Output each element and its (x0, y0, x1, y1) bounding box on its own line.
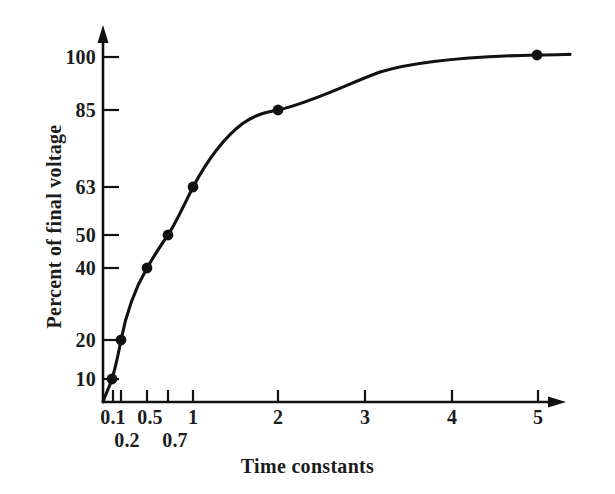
data-point (116, 335, 127, 346)
x-tick-label-5: 5 (533, 406, 543, 429)
y-axis-title: Percent of final voltage (43, 77, 66, 377)
data-point-markers (107, 50, 543, 385)
charging-curve (103, 54, 570, 402)
x-tick-label-0.2: 0.2 (114, 429, 140, 452)
x-tick-label-0.7: 0.7 (162, 429, 188, 452)
y-axis (98, 25, 109, 402)
data-point (107, 374, 118, 385)
x-tick-label-4: 4 (447, 406, 457, 429)
data-point (273, 105, 284, 116)
x-tick-label-2: 2 (273, 406, 283, 429)
data-point (188, 182, 199, 193)
x-tick-label-0.1: 0.1 (100, 406, 126, 429)
x-tick-label-3: 3 (360, 406, 370, 429)
y-tick-label-100: 100 (44, 46, 96, 69)
x-tick-label-0.5: 0.5 (137, 406, 163, 429)
y-axis-ticks (103, 57, 119, 379)
data-point (163, 230, 174, 241)
x-tick-label-1: 1 (188, 406, 198, 429)
data-point (142, 263, 153, 274)
x-axis (103, 397, 566, 408)
data-point (532, 50, 543, 61)
x-axis-title: Time constants (0, 455, 615, 478)
x-axis-ticks (113, 390, 538, 402)
chart-plot-area (0, 0, 615, 494)
chart-figure: 100 85 63 50 40 20 10 0.1 0.5 1 2 3 4 5 … (0, 0, 615, 494)
